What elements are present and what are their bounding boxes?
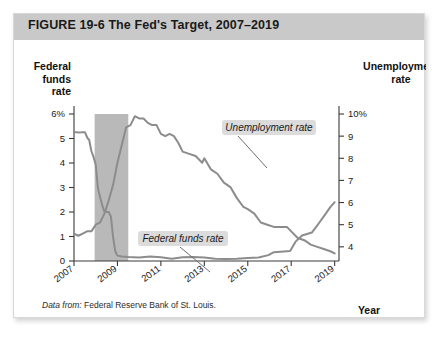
figure-card: FIGURE 19-6 The Fed's Target, 2007–2019 …: [13, 13, 425, 318]
chart-svg: 0123456%45678910%20072009201120132015201…: [14, 40, 426, 319]
figure-title: FIGURE 19-6 The Fed's Target, 2007–2019: [28, 18, 279, 32]
right-tick-label: 8: [348, 153, 353, 164]
source-text: Federal Reserve Bank of St. Louis.: [82, 300, 216, 310]
figure-header-bar: FIGURE 19-6 The Fed's Target, 2007–2019: [14, 14, 424, 40]
left-tick-label: 4: [60, 157, 65, 168]
right-axis-title-line: rate: [391, 73, 410, 85]
left-tick-label: 2: [60, 206, 65, 217]
x-tick-label: 2011: [139, 263, 162, 284]
right-axis-title-line: Unemployment: [363, 60, 426, 72]
annotation-label: Federal funds rate: [142, 233, 224, 244]
source-note: Data from: Federal Reserve Bank of St. L…: [42, 300, 216, 310]
right-tick-label: 7: [348, 175, 353, 186]
left-tick-label: 0: [60, 255, 65, 266]
x-tick-label: 2007: [52, 263, 76, 285]
right-tick-label: 9: [348, 131, 353, 142]
left-tick-label: 6%: [51, 108, 65, 119]
left-axis-title-line: rate: [52, 85, 71, 97]
right-tick-label: 4: [348, 241, 353, 252]
left-axis-title-line: Federal: [34, 60, 71, 72]
left-axis-title-line: funds: [42, 73, 71, 85]
left-tick-label: 5: [60, 133, 65, 144]
left-tick-label: 3: [60, 182, 65, 193]
left-tick-label: 1: [60, 231, 65, 242]
x-axis-title: Year: [358, 304, 380, 316]
x-tick-label: 2019: [312, 263, 336, 285]
right-tick-label: 6: [348, 197, 353, 208]
annotation-leader-line: [238, 136, 267, 168]
x-tick-label: 2015: [225, 263, 249, 285]
x-tick-label: 2013: [182, 263, 206, 285]
right-tick-label: 5: [348, 219, 353, 230]
x-tick-label: 2017: [269, 263, 293, 285]
annotation-label: Unemployment rate: [225, 122, 313, 133]
x-tick-label: 2009: [95, 263, 119, 285]
right-tick-label: 10%: [348, 108, 368, 119]
chart-plot-area: 0123456%45678910%20072009201120132015201…: [14, 40, 424, 319]
source-label: Data from:: [42, 300, 82, 310]
